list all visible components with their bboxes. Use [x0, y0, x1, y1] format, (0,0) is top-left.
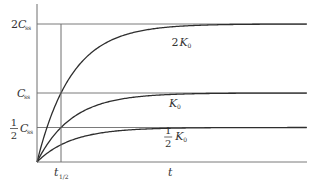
- y-tick-label-sub-2: ss: [25, 24, 31, 31]
- series-label-coef-0: 2: [171, 36, 178, 49]
- axis-layer: [37, 4, 61, 162]
- y-tick-label-sub-0: ss: [27, 128, 33, 135]
- y-tick-fraction-num-0: 1: [11, 117, 17, 128]
- series-label-sub-2: 0: [183, 136, 187, 143]
- y-tick-coef-2: 2: [11, 18, 18, 31]
- y-tick-label-sub-1: ss: [24, 93, 30, 100]
- series-curve-1-2-K0: [37, 128, 307, 162]
- x-tick-label-sub-0: 1/2: [59, 173, 69, 180]
- y-tick-fraction-den-0: 2: [11, 130, 17, 141]
- series-label-sub-1: 0: [177, 103, 181, 110]
- series-label-fraction-den-2: 2: [165, 138, 171, 149]
- x-axis-label: t: [168, 166, 173, 179]
- series-label-sub-0: 0: [187, 42, 191, 49]
- series-label-fraction-num-2: 1: [165, 125, 171, 136]
- chart: 12CssCss2Csst1/2t2K0K012K0: [0, 0, 315, 183]
